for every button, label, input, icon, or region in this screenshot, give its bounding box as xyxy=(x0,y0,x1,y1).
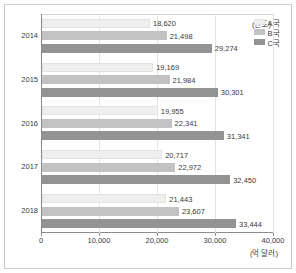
bar[interactable] xyxy=(42,194,166,203)
legend-item[interactable]: C국 xyxy=(254,38,280,46)
x-axis-tick-label: 30,000 xyxy=(204,236,227,245)
bar-row: 21,984 xyxy=(42,75,274,84)
bar-row: 33,444 xyxy=(42,219,274,228)
legend-swatch-icon xyxy=(254,19,265,25)
chart-screenshot: (연도) 18,62021,49829,27419,16921,98430,30… xyxy=(0,0,296,273)
bar-group: 21,44323,60733,444 xyxy=(42,189,274,233)
bar[interactable] xyxy=(42,19,150,28)
bar-row: 29,274 xyxy=(42,44,274,53)
bar-value-label: 33,444 xyxy=(236,219,262,228)
bar-value-label: 21,443 xyxy=(166,194,192,203)
bar[interactable] xyxy=(42,150,162,159)
bar[interactable] xyxy=(42,131,224,140)
legend-item[interactable]: A국 xyxy=(254,18,280,26)
bar-row: 21,498 xyxy=(42,31,274,40)
legend-item[interactable]: B국 xyxy=(254,28,280,36)
y-axis-tick-label: 2018 xyxy=(21,206,38,215)
bar-row: 23,607 xyxy=(42,207,274,216)
y-axis-tick-label: 2015 xyxy=(21,75,38,84)
bar[interactable] xyxy=(42,31,167,40)
bar[interactable] xyxy=(42,119,172,128)
bar-value-label: 31,341 xyxy=(224,131,250,140)
bar-value-label: 22,341 xyxy=(172,119,198,128)
bar-row: 20,717 xyxy=(42,150,274,159)
bar-group: 19,95522,34131,341 xyxy=(42,102,274,146)
bar-row: 31,341 xyxy=(42,131,274,140)
bar[interactable] xyxy=(42,163,175,172)
bar-row: 18,620 xyxy=(42,19,274,28)
bar-value-label: 29,274 xyxy=(212,44,238,53)
plot-area: 18,62021,49829,27419,16921,98430,30119,9… xyxy=(41,14,274,233)
bar-row: 19,955 xyxy=(42,106,274,115)
bar-group: 18,62021,49829,274 xyxy=(42,14,274,58)
x-axis-tick-label: 40,000 xyxy=(262,236,285,245)
bar-value-label: 22,972 xyxy=(175,163,201,172)
bar-value-label: 19,955 xyxy=(158,106,184,115)
bar-value-label: 18,620 xyxy=(150,19,176,28)
bar-value-label: 23,607 xyxy=(179,207,205,216)
legend-swatch-icon xyxy=(254,39,265,45)
bar-row: 22,341 xyxy=(42,119,274,128)
x-axis-tick-label: 20,000 xyxy=(146,236,169,245)
bar[interactable] xyxy=(42,175,230,184)
bar-row: 30,301 xyxy=(42,88,274,97)
bar-row: 21,443 xyxy=(42,194,274,203)
bar-value-label: 32,450 xyxy=(230,175,256,184)
bar[interactable] xyxy=(42,106,158,115)
x-axis-unit-label: (억 달러) xyxy=(250,247,278,258)
chart-legend: A국B국C국 xyxy=(254,18,280,46)
bar[interactable] xyxy=(42,207,179,216)
bar[interactable] xyxy=(42,63,153,72)
x-axis-tick-label: 0 xyxy=(39,236,43,245)
bar[interactable] xyxy=(42,75,170,84)
bar-value-label: 21,498 xyxy=(167,31,193,40)
legend-label: C국 xyxy=(268,37,280,48)
bar[interactable] xyxy=(42,219,236,228)
y-axis-tick-label: 2016 xyxy=(21,119,38,128)
y-axis-tick-label: 2017 xyxy=(21,162,38,171)
bar-group: 20,71722,97232,450 xyxy=(42,145,274,189)
legend-swatch-icon xyxy=(254,29,265,35)
bar-value-label: 19,169 xyxy=(153,63,179,72)
bar-row: 22,972 xyxy=(42,163,274,172)
bar-group: 19,16921,98430,301 xyxy=(42,58,274,102)
bar-row: 19,169 xyxy=(42,63,274,72)
bar-value-label: 30,301 xyxy=(218,88,244,97)
x-axis-tick-label: 10,000 xyxy=(88,236,111,245)
bar-value-label: 20,717 xyxy=(162,150,188,159)
bar-row: 32,450 xyxy=(42,175,274,184)
bar-value-label: 21,984 xyxy=(170,75,196,84)
bar[interactable] xyxy=(42,44,212,53)
y-axis-tick-label: 2014 xyxy=(21,31,38,40)
bar[interactable] xyxy=(42,88,218,97)
